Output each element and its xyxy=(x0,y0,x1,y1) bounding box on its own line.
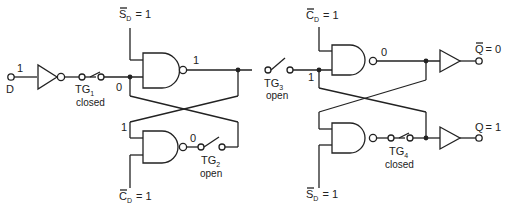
slave-top-out-value: 0 xyxy=(381,46,387,58)
tg2-state: open xyxy=(200,168,222,179)
slave-node-value: 1 xyxy=(308,71,314,83)
tg1-state: closed xyxy=(76,97,105,108)
input-d-value: 1 xyxy=(17,62,23,74)
master-node-value: 0 xyxy=(116,81,122,93)
slave-nand-bottom xyxy=(319,123,388,188)
output-q-label: Q= 1 xyxy=(475,121,501,133)
master-set-label: SD= 1 xyxy=(119,8,151,22)
slave-nand-top xyxy=(319,27,440,75)
flip-flop-diagram: 1 D TG1 closed 0 SD= 1 1 1 xyxy=(0,0,507,221)
slave-clear-label: CD= 1 xyxy=(306,9,339,23)
output-qbar-label: Q= 0 xyxy=(475,43,501,55)
svg-text:TG4: TG4 xyxy=(389,145,408,159)
master-nand-bottom xyxy=(130,131,198,188)
tg1-label: TG xyxy=(75,83,90,95)
master-nand-top xyxy=(130,28,252,88)
tg4-switch: TG4 closed xyxy=(385,133,440,170)
tg4-sub: 4 xyxy=(404,152,408,159)
tg1-sub: 1 xyxy=(90,90,94,97)
input-inverter xyxy=(38,65,79,89)
slave-set-label: SD= 1 xyxy=(306,188,338,202)
svg-text:TG2: TG2 xyxy=(201,154,220,168)
junction-dot xyxy=(424,136,429,141)
master-bottom-out-value: 0 xyxy=(190,132,196,144)
svg-text:TG1: TG1 xyxy=(75,83,94,97)
tg2-sub: 2 xyxy=(216,161,220,168)
tg1-switch: TG1 closed xyxy=(75,72,143,108)
input-d: 1 D xyxy=(6,62,37,95)
input-d-label: D xyxy=(6,83,14,95)
master-clear-label: CD= 1 xyxy=(119,190,152,204)
tg3-label: TG xyxy=(264,77,279,89)
tg2-switch: TG2 open xyxy=(198,137,238,179)
master-cross-value: 1 xyxy=(121,121,127,133)
tg3-state: open xyxy=(266,90,288,101)
svg-text:TG3: TG3 xyxy=(264,77,283,91)
tg4-label: TG xyxy=(389,145,404,157)
master-top-out-value: 1 xyxy=(193,54,199,66)
tg4-state: closed xyxy=(385,159,414,170)
tg2-label: TG xyxy=(201,154,216,166)
tg3-switch: TG3 open xyxy=(264,58,332,101)
